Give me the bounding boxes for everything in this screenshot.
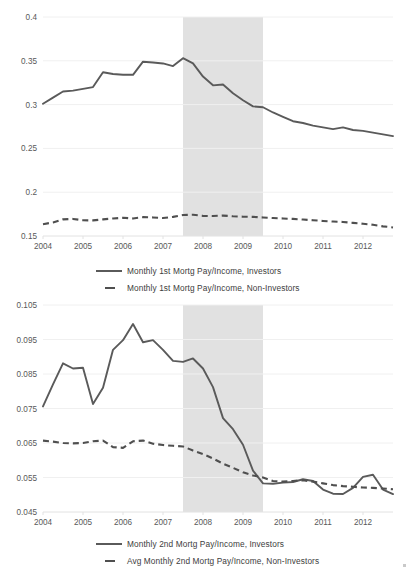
legend-label: Avg Monthly 2nd Mortg Pay/Income, Non-In… bbox=[127, 556, 319, 566]
legend-item-bottom-1[interactable]: Avg Monthly 2nd Mortg Pay/Income, Non-In… bbox=[0, 552, 409, 569]
x-axis-tick-label: 2005 bbox=[74, 518, 93, 527]
x-axis-tick-label: 2008 bbox=[194, 242, 213, 251]
x-axis-tick-label: 2005 bbox=[74, 242, 93, 251]
legend-item-top-0[interactable]: Monthly 1st Mortg Pay/Income, Investors bbox=[0, 262, 409, 279]
y-axis-tick-label: 0.075 bbox=[17, 405, 38, 414]
x-axis-tick-label: 2008 bbox=[194, 518, 213, 527]
x-axis-tick-label: 2004 bbox=[34, 518, 53, 527]
x-axis-tick-label: 2009 bbox=[234, 518, 253, 527]
y-axis-tick-label: 0.25 bbox=[21, 144, 37, 153]
x-axis-tick-label: 2009 bbox=[234, 242, 253, 251]
x-axis-tick-label: 2006 bbox=[114, 242, 133, 251]
x-axis-tick-label: 2011 bbox=[314, 518, 332, 527]
y-axis-tick-label: 0.105 bbox=[17, 301, 38, 310]
y-axis-tick-label: 0.2 bbox=[26, 188, 38, 197]
x-axis-tick-label: 2010 bbox=[274, 242, 293, 251]
x-axis-tick-label: 2004 bbox=[34, 242, 53, 251]
y-axis-tick-label: 0.055 bbox=[17, 474, 38, 483]
legend-label: Monthly 1st Mortg Pay/Income, Investors bbox=[127, 266, 281, 276]
chart-panel-second-mortgage: 0.0450.0550.0650.0750.0850.0950.10520042… bbox=[0, 290, 409, 573]
y-axis-tick-label: 0.15 bbox=[21, 232, 37, 241]
x-axis-tick-label: 2011 bbox=[314, 242, 332, 251]
y-axis-tick-label: 0.045 bbox=[17, 508, 38, 517]
x-axis-tick-label: 2007 bbox=[154, 242, 173, 251]
chart-panel-first-mortgage: 0.150.20.250.30.350.42004200520062007200… bbox=[0, 0, 409, 290]
y-axis-tick-label: 0.3 bbox=[26, 101, 38, 110]
chart-area-top: 0.150.20.250.30.350.42004200520062007200… bbox=[0, 0, 409, 262]
corner-artifact bbox=[403, 564, 406, 567]
chart-area-bottom: 0.0450.0550.0650.0750.0850.0950.10520042… bbox=[0, 290, 409, 535]
y-axis-tick-label: 0.085 bbox=[17, 370, 38, 379]
legend-item-bottom-0[interactable]: Monthly 2nd Mortg Pay/Income, Investors bbox=[0, 535, 409, 552]
y-axis-tick-label: 0.35 bbox=[21, 57, 37, 66]
y-axis-tick-label: 0.095 bbox=[17, 336, 38, 345]
chart-page: 0.150.20.250.30.350.42004200520062007200… bbox=[0, 0, 409, 573]
y-axis-tick-label: 0.4 bbox=[26, 13, 38, 22]
legend-bottom: Monthly 2nd Mortg Pay/Income, Investors … bbox=[0, 535, 409, 569]
x-axis-tick-label: 2006 bbox=[114, 518, 133, 527]
x-axis-tick-label: 2012 bbox=[354, 518, 373, 527]
legend-label: Monthly 2nd Mortg Pay/Income, Investors bbox=[127, 539, 284, 549]
line-chart-second-mortgage: 0.0450.0550.0650.0750.0850.0950.10520042… bbox=[0, 290, 409, 535]
legend-swatch-solid-icon bbox=[96, 266, 122, 276]
recession-band bbox=[183, 17, 263, 236]
x-axis-tick-label: 2007 bbox=[154, 518, 173, 527]
legend-swatch-solid-icon bbox=[96, 539, 122, 549]
legend-swatch-dashed-icon bbox=[96, 556, 122, 566]
x-axis-tick-label: 2010 bbox=[274, 518, 293, 527]
line-chart-first-mortgage: 0.150.20.250.30.350.42004200520062007200… bbox=[0, 0, 409, 262]
y-axis-tick-label: 0.065 bbox=[17, 439, 38, 448]
x-axis-tick-label: 2012 bbox=[354, 242, 373, 251]
